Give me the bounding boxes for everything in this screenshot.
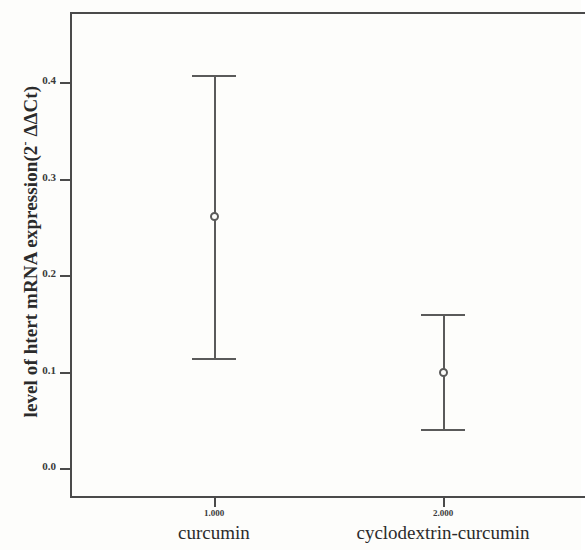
x-axis-category-label: cyclodextrin-curcumin [323, 522, 563, 544]
y-axis-tick-mark [60, 179, 70, 181]
mean-marker [439, 368, 448, 377]
y-axis-tick-mark [60, 275, 70, 277]
y-axis-title-superscript: - [18, 141, 32, 145]
y-axis-tick-label: 0.2 [42, 267, 56, 279]
x-axis-tick-mark [443, 498, 445, 507]
y-axis-tick-label: 0.0 [42, 460, 56, 472]
x-axis-tick-value: 2.000 [403, 508, 483, 518]
y-axis-tick-mark [60, 468, 70, 470]
x-axis-tick-value: 1.000 [174, 508, 254, 518]
error-bar-upper-cap [192, 75, 236, 77]
plot-area [70, 12, 585, 498]
error-bar-lower-cap [421, 429, 465, 431]
x-axis-category-label: curcumin [94, 522, 334, 544]
error-bar-lower-cap [192, 358, 236, 360]
y-axis-title-main-before: level of htert mRNA expression(2 [20, 146, 41, 418]
x-axis-tick-mark [214, 498, 216, 507]
y-axis-title: level of htert mRNA expression(2- ΔΔCt) [18, 17, 41, 487]
y-axis-tick-label: 0.3 [42, 171, 56, 183]
y-axis-tick-mark [60, 372, 70, 374]
y-axis-tick-mark [60, 82, 70, 84]
y-axis-tick-label: 0.1 [42, 364, 56, 376]
error-bar-upper-cap [421, 314, 465, 316]
y-axis-tick-label: 0.4 [42, 74, 56, 86]
y-axis-title-main-after: ΔΔCt) [20, 86, 41, 142]
